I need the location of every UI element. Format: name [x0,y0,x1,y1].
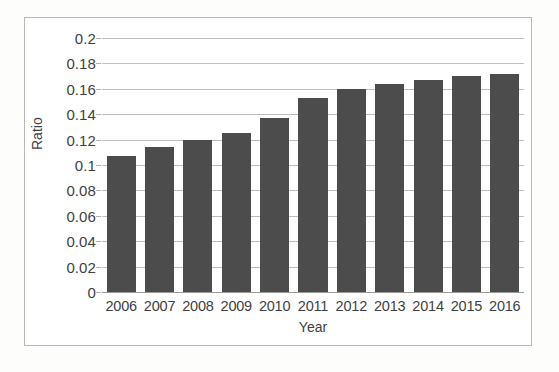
y-axis-tick-label: 0.18 [26,56,96,71]
x-axis-tick-label-2011: 2011 [294,296,332,318]
bar-slot [332,38,370,292]
x-axis-tick-labels: 2006200720082009201020112012201320142015… [102,296,524,318]
bar-slot [179,38,217,292]
bar-2010[interactable] [260,118,289,292]
chart-plot-frame: Ratio 0.20.180.160.140.120.10.080.060.04… [24,17,532,346]
y-axis-tick-label: 0.02 [26,259,96,274]
x-axis-tick-label-2007: 2007 [140,296,178,318]
bar-2007[interactable] [145,147,174,292]
y-axis-tick-label: 0.1 [26,158,96,173]
y-axis-tick-label: 0.04 [26,234,96,249]
y-axis-tick-mark [96,38,101,39]
bar-slot [140,38,178,292]
y-axis-tick-mark [96,190,101,191]
bar-2011[interactable] [298,98,327,292]
bar-slot [255,38,293,292]
y-axis-tick-label: 0.14 [26,107,96,122]
y-axis-tick-mark [96,267,101,268]
plot-area [102,38,524,292]
bar-slot [486,38,524,292]
y-axis-tick-mark [96,241,101,242]
x-axis-title: Year [102,319,524,335]
bar-2013[interactable] [375,84,404,292]
bar-slot [447,38,485,292]
y-axis-tick-mark [96,140,101,141]
y-axis-tick-label: 0.08 [26,183,96,198]
y-axis-tick-mark [96,114,101,115]
x-axis-tick-label-2013: 2013 [371,296,409,318]
x-axis-tick-label-2015: 2015 [447,296,485,318]
y-axis-tick-label: 0 [26,285,96,300]
y-axis-tick-label: 0.12 [26,132,96,147]
bar-slot [409,38,447,292]
x-axis-tick-label-2010: 2010 [255,296,293,318]
y-axis-tick-mark [96,89,101,90]
x-axis-tick-label-2016: 2016 [486,296,524,318]
x-axis-tick-label-2009: 2009 [217,296,255,318]
x-axis-tick-label-2012: 2012 [332,296,370,318]
bar-2016[interactable] [490,74,519,292]
chart-figure: Ratio 0.20.180.160.140.120.10.080.060.04… [0,0,559,372]
y-axis-tick-label: 0.16 [26,81,96,96]
bar-2006[interactable] [107,156,136,292]
bar-slot [294,38,332,292]
y-axis-tick-mark [96,292,101,293]
bar-slot [102,38,140,292]
bar-2014[interactable] [414,80,443,292]
gridline [102,292,524,293]
y-axis-tick-mark [96,63,101,64]
x-axis-tick-label-2008: 2008 [179,296,217,318]
bar-slot [217,38,255,292]
bar-slot [371,38,409,292]
bar-2015[interactable] [452,76,481,292]
y-axis-tick-label: 0.2 [26,31,96,46]
y-axis-tick-label: 0.06 [26,208,96,223]
y-axis-tick-mark [96,165,101,166]
x-axis-tick-label-2014: 2014 [409,296,447,318]
y-axis-tick-labels: 0.20.180.160.140.120.10.080.060.040.020 [25,38,96,292]
bar-2008[interactable] [183,140,212,292]
bar-2009[interactable] [222,133,251,292]
x-axis-tick-label-2006: 2006 [102,296,140,318]
bar-2012[interactable] [337,89,366,292]
bar-series [102,38,524,292]
y-axis-tick-mark [96,216,101,217]
